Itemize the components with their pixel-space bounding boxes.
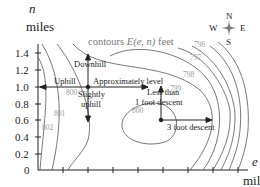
annotation-uphill-2: uphill xyxy=(81,99,101,109)
diagram-title: contours E(e, n) feet xyxy=(88,36,174,48)
y-tick-label: 0.2 xyxy=(15,148,29,160)
annotation-slightly: Slightly xyxy=(78,89,106,99)
x-axis-unit: mile xyxy=(243,173,260,187)
y-tick-label: 1.2 xyxy=(15,64,29,76)
compass-s: S xyxy=(226,37,231,47)
compass-rose-icon xyxy=(221,20,237,36)
contour-diagram: n miles e mile 0 0.2 0.4 0.6 0.8 1.0 1.2… xyxy=(0,0,260,187)
y-axis-unit: miles xyxy=(26,19,54,34)
annotation-less-than: Less than xyxy=(147,87,180,97)
contour-label-800: 800 xyxy=(66,88,78,97)
compass-e: E xyxy=(240,23,246,33)
annotation-three-foot: 3 foot descent xyxy=(167,122,215,132)
y-tick-label: 0.6 xyxy=(15,114,29,126)
y-tick-label: 0 xyxy=(24,164,30,176)
contour-label-802: 802 xyxy=(42,123,54,132)
contour-label-800-oval: 800 xyxy=(132,106,144,115)
y-tick-label: 1.0 xyxy=(15,81,29,93)
contour-label-797: 797 xyxy=(190,53,202,62)
x-axis-var: e xyxy=(252,154,258,169)
compass-w: W xyxy=(209,23,218,33)
y-axis-var: n xyxy=(29,1,36,16)
y-tick-label: 0.8 xyxy=(15,98,29,110)
contour-label-798: 798 xyxy=(183,70,195,79)
contour-label-796: 796 xyxy=(194,40,206,49)
annotation-uphill: Uphill xyxy=(54,76,76,86)
annotation-downhill: Downhill xyxy=(74,59,107,69)
y-tick-label: 1.4 xyxy=(15,47,29,59)
contour-label-801: 801 xyxy=(54,109,66,118)
y-tick-label: 0.4 xyxy=(15,131,29,143)
annotation-approx-level: Approximately level xyxy=(93,76,164,86)
compass-n: N xyxy=(226,11,233,21)
annotation-one-foot: 1 foot descent xyxy=(135,97,183,107)
